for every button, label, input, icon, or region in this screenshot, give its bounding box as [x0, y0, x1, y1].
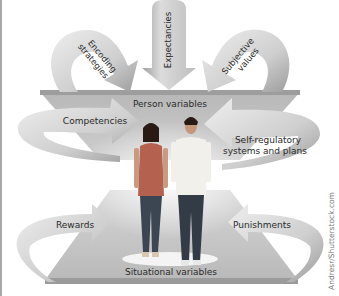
rewards-label: Rewards: [56, 220, 95, 230]
competencies-label: Competencies: [63, 116, 128, 126]
self-regulatory-label-line2: systems and plans: [223, 146, 307, 156]
social-cognitive-diagram: Person variables Situational variables E…: [0, 0, 339, 296]
photo-credit-text: Andresr/Shutterstock.com: [327, 192, 336, 290]
photo-credit: Andresr/Shutterstock.com: [325, 186, 337, 296]
person-variables-label: Person variables: [133, 99, 207, 109]
situational-variables-label: Situational variables: [125, 267, 217, 277]
expectancies-label: Expectancies: [163, 11, 173, 68]
floor-spot: [122, 252, 218, 266]
punishments-label: Punishments: [233, 220, 291, 230]
self-regulatory-label-line1: Self-regulatory: [235, 135, 302, 145]
page-margin-rule: [0, 0, 2, 296]
